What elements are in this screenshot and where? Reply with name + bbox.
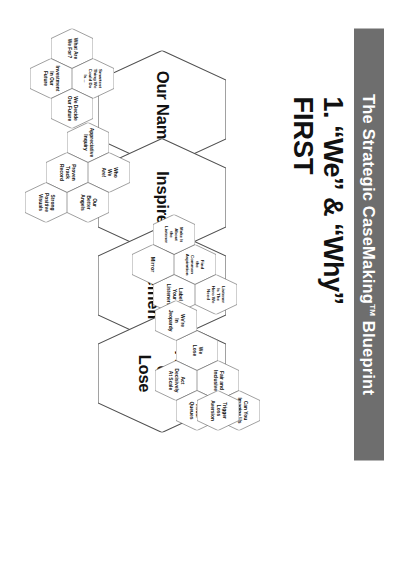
trademark-symbol: TM (368, 304, 377, 316)
hex-cell: OurBetterAngels (67, 182, 109, 222)
hex-cell: StrongPositiveVisuals (25, 182, 67, 222)
heading-line-2: FIRST (289, 96, 316, 396)
hex-cell: TriggerLossAversion (197, 390, 239, 430)
hex-cell: We'reInJeopardy (155, 300, 197, 340)
page-title: The Strategic CaseMakingTM Blueprint (360, 93, 379, 394)
title-text-after: Blueprint (361, 316, 379, 395)
slide-page: The Strategic CaseMakingTM Blueprint 1. … (0, 0, 402, 573)
section-heading: 1. “We” & “Why” FIRST (289, 96, 346, 396)
hex-cell: Mirror (132, 244, 174, 284)
slide-canvas: The Strategic CaseMakingTM Blueprint 1. … (0, 0, 402, 573)
heading-line-1: 1. “We” & “Why” (319, 96, 346, 396)
title-text-before: The Strategic CaseMaking (361, 93, 379, 303)
title-bar: The Strategic CaseMakingTM Blueprint (354, 28, 384, 460)
hex-cell: ListenerIs TheHero WeNeed (195, 274, 237, 314)
